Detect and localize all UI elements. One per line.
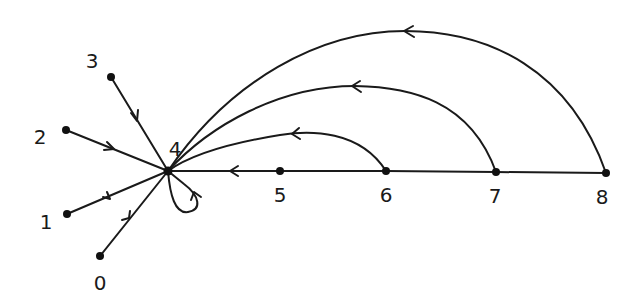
node-label-5: 5 (274, 183, 287, 207)
node-7 (492, 168, 500, 176)
self-loop-4 (168, 171, 197, 212)
node-label-7: 7 (489, 184, 502, 208)
node-8 (602, 169, 610, 177)
node-label-1: 1 (40, 210, 53, 234)
node-label-2: 2 (34, 125, 47, 149)
node-label-0: 0 (94, 271, 107, 295)
directed-graph-diagram: 012345678 (0, 0, 641, 307)
node-6 (382, 167, 390, 175)
node-5 (276, 167, 284, 175)
edge-2-to-4 (66, 130, 168, 171)
node-label-3: 3 (86, 49, 99, 73)
arc-8-to-4 (168, 31, 606, 173)
node-4 (164, 167, 173, 176)
node-1 (63, 210, 71, 218)
edge-3-to-4 (111, 77, 168, 171)
arc-7-to-4 (168, 86, 496, 172)
edge-1-to-4 (67, 171, 168, 214)
arrowhead-1-to-4 (103, 192, 110, 199)
node-2 (62, 126, 70, 134)
node-0 (96, 252, 104, 260)
edge-0-to-4 (100, 171, 168, 256)
node-label-6: 6 (380, 183, 393, 207)
arrowhead-0-to-4 (122, 211, 130, 220)
arc-6-to-4 (168, 133, 386, 171)
node-label-4: 4 (169, 137, 182, 161)
node-label-8: 8 (596, 185, 609, 209)
node-3 (107, 73, 115, 81)
